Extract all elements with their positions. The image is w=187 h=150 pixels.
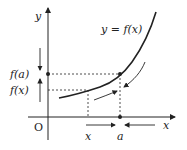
fx-label: f(x) <box>9 84 29 97</box>
y-axis-label: y <box>34 10 42 23</box>
point-fa-on-y-axis <box>46 72 50 76</box>
point-a-fa <box>118 72 122 76</box>
point-a-on-x-axis <box>118 115 122 119</box>
arrow-along-curve-from-right <box>124 62 145 87</box>
limit-diagram: y y = f(x) f(a) f(x) O x a x <box>0 0 187 150</box>
curve-label: y = f(x) <box>100 23 142 36</box>
x-tick-label: x <box>85 130 92 143</box>
a-tick-label: a <box>117 130 124 143</box>
x-axis-label: x <box>163 119 170 132</box>
arrow-along-curve-from-left <box>94 91 117 100</box>
origin-label: O <box>34 121 43 134</box>
fa-label: f(a) <box>9 68 29 81</box>
